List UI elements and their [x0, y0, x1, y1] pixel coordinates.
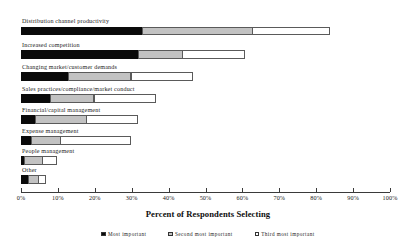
category-label: People management — [22, 147, 74, 155]
legend-item[interactable]: Second most important — [168, 231, 232, 237]
axis-tick-label: 20% — [89, 194, 101, 201]
axis-tick — [316, 188, 317, 192]
stacked-bar — [21, 50, 245, 59]
legend-swatch-icon — [101, 232, 106, 237]
axis-tick — [132, 188, 133, 192]
bar-segment-second-most-important — [28, 175, 39, 184]
bar-segment-second-most-important — [24, 156, 42, 165]
axis-tick — [279, 188, 280, 192]
axis-tick — [206, 188, 207, 192]
axis-tick — [58, 188, 59, 192]
bar-segment-third-most-important — [131, 72, 194, 81]
bar-segment-most-important — [21, 115, 36, 124]
bar-segment-most-important — [21, 27, 143, 36]
category-label: Sales practices/compliance/market conduc… — [22, 85, 135, 93]
stacked-bar — [21, 94, 156, 103]
axis-tick-label: 90% — [347, 194, 359, 201]
legend-swatch-icon — [168, 232, 173, 237]
x-axis-title: Percent of Respondents Selecting — [0, 209, 416, 219]
stacked-bar — [21, 136, 131, 145]
bar-segment-second-most-important — [35, 115, 87, 124]
legend-item[interactable]: Third most important — [255, 231, 315, 237]
axis-tick — [169, 188, 170, 192]
axis-tick-label: 60% — [237, 194, 249, 201]
bar-segment-third-most-important — [252, 27, 329, 36]
axis-tick — [95, 188, 96, 192]
category-label: Expense management — [22, 127, 79, 135]
bar-segment-second-most-important — [138, 50, 182, 59]
category-label: Increased competition — [22, 41, 80, 49]
bar-segment-third-most-important — [94, 94, 157, 103]
bar-segment-second-most-important — [50, 94, 94, 103]
stacked-bar — [21, 156, 57, 165]
axis-tick-label: 70% — [273, 194, 285, 201]
axis-tick — [353, 188, 354, 192]
stacked-bar — [21, 115, 138, 124]
bar-segment-most-important — [21, 136, 32, 145]
bar-segment-most-important — [21, 50, 139, 59]
axis-tick-label: 40% — [163, 194, 175, 201]
axis-tick-label: 0% — [17, 194, 25, 201]
bar-segment-third-most-important — [60, 136, 130, 145]
category-label: Financial/capital management — [22, 106, 100, 114]
bar-segment-third-most-important — [38, 175, 45, 184]
stacked-bar — [21, 27, 330, 36]
axis-tick-label: 10% — [52, 194, 64, 201]
bar-segment-second-most-important — [68, 72, 131, 81]
category-label: Distribution channel productivity — [22, 17, 109, 25]
axis-tick — [242, 188, 243, 192]
stacked-bar — [21, 72, 193, 81]
axis-tick-label: 50% — [200, 194, 212, 201]
bar-segment-second-most-important — [142, 27, 253, 36]
stacked-bar — [21, 175, 46, 184]
category-label: Other — [22, 166, 37, 174]
axis-tick-label: 30% — [126, 194, 138, 201]
stacked-bar-chart: Distribution channel productivityIncreas… — [0, 0, 416, 250]
axis-tick-label: 80% — [310, 194, 322, 201]
bar-segment-third-most-important — [42, 156, 57, 165]
bar-segment-third-most-important — [86, 115, 138, 124]
chart-legend: Most importantSecond most importantThird… — [0, 231, 416, 237]
axis-tick — [21, 188, 22, 192]
legend-swatch-icon — [255, 232, 260, 237]
legend-label: Third most important — [261, 231, 314, 237]
axis-tick — [390, 188, 391, 192]
bar-segment-second-most-important — [31, 136, 61, 145]
bar-segment-most-important — [21, 94, 51, 103]
plot-area: Distribution channel productivityIncreas… — [21, 14, 390, 192]
category-label: Changing market/customer demands — [22, 63, 117, 71]
bar-segment-third-most-important — [182, 50, 245, 59]
bar-segment-most-important — [21, 72, 69, 81]
legend-label: Most important — [108, 231, 146, 237]
axis-tick-label: 100% — [383, 194, 398, 201]
legend-label: Second most important — [175, 231, 233, 237]
legend-item[interactable]: Most important — [101, 231, 146, 237]
